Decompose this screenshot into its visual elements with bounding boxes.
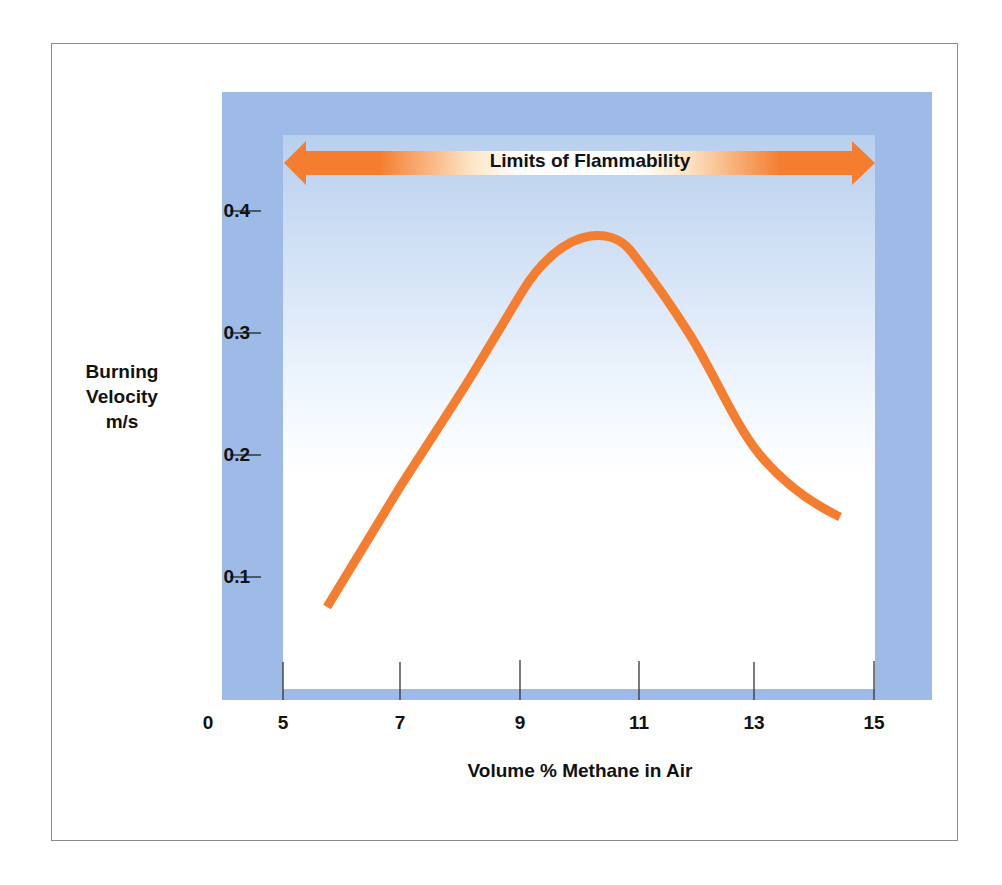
y-tick-label-0.1: 0.1 xyxy=(190,566,250,588)
x-tick-label-13: 13 xyxy=(734,712,774,734)
x-axis-title: Volume % Methane in Air xyxy=(380,760,780,782)
y-tick-label-0.4: 0.4 xyxy=(190,200,250,222)
y-tick-label-0.2: 0.2 xyxy=(190,444,250,466)
flammability-label: Limits of Flammability xyxy=(380,150,800,172)
x-tick-label-7: 7 xyxy=(380,712,420,734)
y-axis-title-line1: Burning xyxy=(62,359,182,384)
y-axis-title-line2: Velocity xyxy=(62,384,182,409)
y-axis-title: Burning Velocity m/s xyxy=(62,359,182,434)
y-tick-label-0.3: 0.3 xyxy=(190,322,250,344)
x-tick-label-15: 15 xyxy=(854,712,894,734)
chart-canvas xyxy=(0,0,1002,885)
x-tick-label-11: 11 xyxy=(619,712,659,734)
x-tick-label-9: 9 xyxy=(500,712,540,734)
x-tick-label-0: 0 xyxy=(188,712,228,734)
x-tick-label-5: 5 xyxy=(263,712,303,734)
plot-area xyxy=(283,135,875,689)
y-axis-title-line3: m/s xyxy=(62,409,182,434)
